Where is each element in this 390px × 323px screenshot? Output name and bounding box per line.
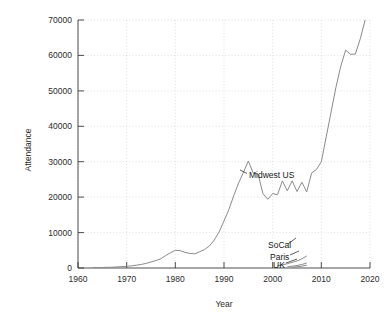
y-tick-label-10000: 10000 — [26, 228, 72, 238]
x-tick-label-1980: 1980 — [166, 274, 185, 284]
annotation-midwest-us: Midwest US — [249, 170, 294, 180]
y-tick-label-0: 0 — [26, 263, 72, 273]
x-tick-label-2020: 2020 — [361, 274, 380, 284]
x-axis-title: Year — [215, 299, 232, 309]
y-tick-label-50000: 50000 — [26, 86, 72, 96]
x-tick-label-1960: 1960 — [69, 274, 88, 284]
axis-frame — [78, 20, 370, 268]
y-axis-ticks — [78, 20, 84, 268]
annotation-uk: UK — [273, 260, 285, 270]
annotation-socal: SoCal — [268, 240, 291, 250]
grid-vertical — [78, 20, 370, 268]
x-tick-label-2010: 2010 — [312, 274, 331, 284]
y-axis-title: Attendance — [23, 128, 33, 171]
y-tick-label-70000: 70000 — [26, 15, 72, 25]
y-tick-label-20000: 20000 — [26, 192, 72, 202]
chart-figure: 70000 60000 50000 40000 30000 20000 1000… — [0, 0, 390, 323]
y-tick-label-60000: 60000 — [26, 50, 72, 60]
x-tick-label-1990: 1990 — [215, 274, 234, 284]
x-axis-ticks — [78, 262, 370, 268]
x-tick-label-2000: 2000 — [263, 274, 282, 284]
series-line-midwest-us — [93, 20, 366, 268]
x-tick-label-1970: 1970 — [117, 274, 136, 284]
